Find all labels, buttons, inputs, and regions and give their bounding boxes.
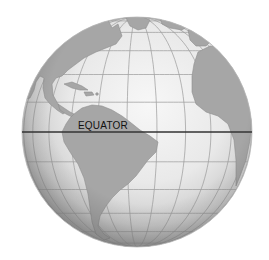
globe-diagram: EQUATOR xyxy=(0,0,269,260)
equator-label: EQUATOR xyxy=(78,120,128,131)
